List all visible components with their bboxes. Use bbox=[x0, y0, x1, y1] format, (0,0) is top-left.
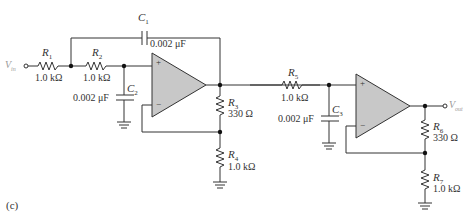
input-terminal bbox=[24, 64, 28, 68]
resistor-r6 bbox=[421, 120, 429, 139]
resistor-r7 bbox=[421, 170, 429, 189]
opamp2-plus: + bbox=[360, 79, 365, 88]
r2-name: R2 bbox=[92, 47, 102, 61]
resistor-r2 bbox=[86, 62, 106, 70]
c1-name: C1 bbox=[138, 12, 149, 26]
c1-value: 0.002 μF bbox=[150, 39, 186, 49]
r3-value: 330 Ω bbox=[228, 109, 253, 119]
opamp1-minus: − bbox=[156, 100, 161, 109]
c3-value: 0.002 μF bbox=[278, 114, 314, 124]
figure-label: (c) bbox=[6, 200, 18, 211]
opamp2-minus: − bbox=[360, 121, 365, 130]
output-terminal bbox=[443, 104, 447, 108]
c2-value: 0.002 μF bbox=[73, 93, 109, 103]
r1-name: R1 bbox=[42, 47, 52, 61]
vin-label: Vin bbox=[5, 60, 16, 72]
c3-name: C3 bbox=[332, 104, 343, 118]
resistor-r4 bbox=[216, 148, 224, 167]
r5-value: 1.0 kΩ bbox=[281, 93, 308, 103]
opamp1-plus: + bbox=[156, 58, 161, 67]
vout-label: Vout bbox=[449, 100, 463, 112]
r5-name: R5 bbox=[288, 67, 298, 81]
c2-name: C2 bbox=[127, 83, 138, 97]
r6-value: 330 Ω bbox=[433, 133, 458, 143]
resistor-r3 bbox=[216, 96, 224, 115]
r7-value: 1.0 kΩ bbox=[433, 184, 460, 194]
r1-value: 1.0 kΩ bbox=[35, 73, 62, 83]
resistor-r1 bbox=[38, 62, 58, 70]
r2-value: 1.0 kΩ bbox=[83, 73, 110, 83]
r4-value: 1.0 kΩ bbox=[228, 162, 255, 172]
